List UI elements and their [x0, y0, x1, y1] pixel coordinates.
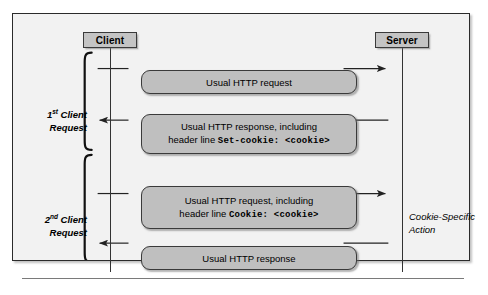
message-line-2: header line Set-cookie: <cookie> — [168, 133, 330, 148]
server-action-note-line1: Cookie-Specific — [409, 210, 479, 223]
group-label-first-request-rest: Client — [58, 109, 87, 120]
message-line-2-prefix: header line — [179, 208, 229, 219]
group-ordinal-suffix-2: nd — [50, 213, 58, 220]
group-bracket-first-request — [85, 53, 92, 150]
message-line-1: Usual HTTP request, including — [185, 194, 314, 207]
message-line-1: Usual HTTP request — [206, 76, 292, 89]
participant-server[interactable]: Server — [375, 32, 429, 48]
group-label-first-request: 1st Client Request — [29, 108, 87, 134]
group-label-first-request-line1: 1st Client — [29, 108, 87, 121]
message-box-http-response-set-cookie[interactable]: Usual HTTP response, including header li… — [141, 114, 357, 154]
figure-caption-rule — [22, 278, 464, 279]
message-line-2: header line Cookie: <cookie> — [179, 207, 318, 222]
server-action-note: Cookie-Specific Action — [409, 210, 479, 236]
group-label-second-request-line1: 2nd Client — [29, 213, 87, 226]
group-label-second-request-line2: Request — [29, 226, 87, 239]
group-label-second-request: 2nd Client Request — [29, 213, 87, 239]
message-box-http-request[interactable]: Usual HTTP request — [141, 70, 357, 94]
message-line-1: Usual HTTP response — [202, 252, 295, 265]
message-header-set-cookie: Set-cookie: <cookie> — [218, 136, 330, 146]
group-label-first-request-line2: Request — [29, 121, 87, 134]
group-bracket-second-request — [85, 155, 92, 260]
message-line-2-prefix: header line — [168, 134, 218, 145]
lifeline-client — [110, 48, 111, 272]
message-box-http-response[interactable]: Usual HTTP response — [141, 246, 357, 270]
figure-frame: Client Server 1st Client Request 2nd Cli… — [12, 13, 470, 261]
message-line-1: Usual HTTP response, including — [181, 120, 317, 133]
participant-client[interactable]: Client — [83, 32, 137, 48]
group-label-second-request-rest: Client — [58, 214, 87, 225]
message-box-http-request-cookie[interactable]: Usual HTTP request, including header lin… — [141, 186, 357, 229]
lifeline-server — [402, 48, 403, 272]
server-action-note-line2: Action — [409, 223, 479, 236]
message-header-cookie: Cookie: <cookie> — [229, 210, 319, 220]
